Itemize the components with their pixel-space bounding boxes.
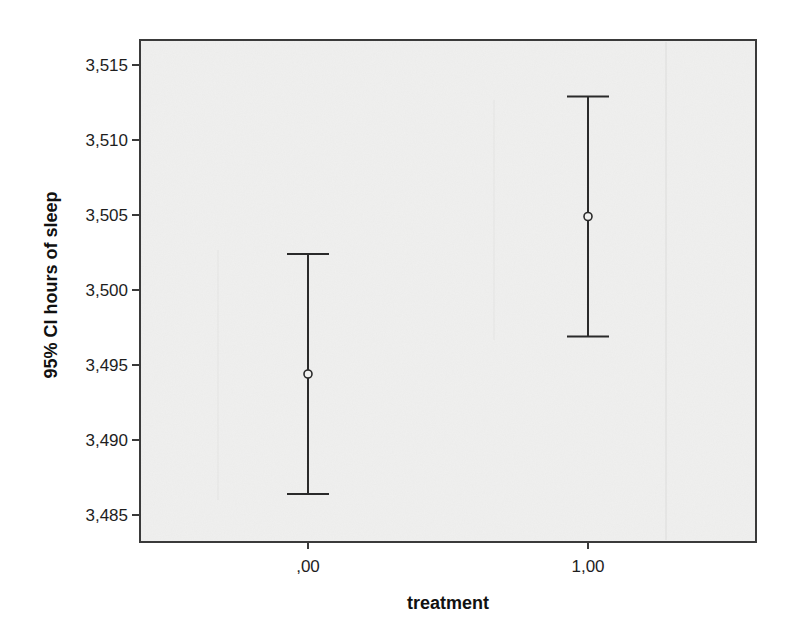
- y-tick-label: 3,515: [85, 56, 128, 75]
- plot-grain-texture: [140, 40, 756, 542]
- y-tick-label: 3,495: [85, 356, 128, 375]
- x-tick-label: 1,00: [571, 557, 604, 576]
- y-tick-label: 3,505: [85, 206, 128, 225]
- x-tick: ,00: [296, 542, 320, 576]
- y-tick: 3,505: [85, 206, 140, 225]
- x-axis-title: treatment: [407, 593, 489, 613]
- errorbar-chart: 3,4853,4903,4953,5003,5053,5103,515 ,001…: [0, 0, 794, 641]
- y-axis-title: 95% CI hours of sleep: [41, 191, 61, 378]
- y-tick: 3,495: [85, 356, 140, 375]
- mean-marker-icon: [584, 213, 592, 221]
- x-axis: ,001,00: [296, 542, 604, 576]
- y-tick-label: 3,490: [85, 431, 128, 450]
- chart-canvas: 3,4853,4903,4953,5003,5053,5103,515 ,001…: [0, 0, 794, 641]
- y-tick: 3,515: [85, 56, 140, 75]
- y-axis: 3,4853,4903,4953,5003,5053,5103,515: [85, 56, 140, 525]
- mean-marker-icon: [304, 370, 312, 378]
- x-tick-label: ,00: [296, 557, 320, 576]
- y-tick-label: 3,510: [85, 131, 128, 150]
- y-tick: 3,485: [85, 506, 140, 525]
- y-tick: 3,490: [85, 431, 140, 450]
- y-tick-label: 3,485: [85, 506, 128, 525]
- y-tick: 3,500: [85, 281, 140, 300]
- y-tick-label: 3,500: [85, 281, 128, 300]
- x-tick: 1,00: [571, 542, 604, 576]
- y-tick: 3,510: [85, 131, 140, 150]
